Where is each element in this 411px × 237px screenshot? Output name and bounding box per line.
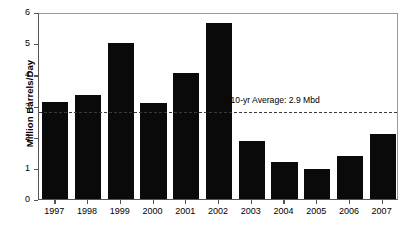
- bar[interactable]: [173, 73, 199, 199]
- y-axis-tick-mark: [34, 200, 38, 201]
- bar[interactable]: [304, 169, 330, 199]
- x-axis-tick-label: 2000: [136, 206, 169, 216]
- y-axis-tick-label: 5: [25, 38, 30, 49]
- x-axis-tick-mark: [349, 200, 350, 204]
- y-axis-tick-label: 6: [25, 7, 30, 18]
- x-axis-tick-mark: [218, 200, 219, 204]
- bars-layer: [39, 14, 397, 199]
- x-axis-tick-mark: [120, 200, 121, 204]
- x-axis-tick-mark: [316, 200, 317, 204]
- x-axis-tick-mark: [87, 200, 88, 204]
- plot-area: [38, 13, 398, 200]
- x-axis-tick-label: 2006: [333, 206, 366, 216]
- y-axis-tick-label: 1: [25, 163, 30, 174]
- x-axis-tick-label: 1998: [71, 206, 104, 216]
- bar[interactable]: [271, 162, 297, 199]
- average-line-label: 10-yr Average: 2.9 Mbd: [231, 95, 320, 105]
- bar[interactable]: [206, 23, 232, 199]
- x-axis-tick-mark: [251, 200, 252, 204]
- bar[interactable]: [140, 103, 166, 199]
- x-axis-tick-label: 2007: [365, 206, 398, 216]
- x-axis-tick-label: 2002: [202, 206, 235, 216]
- bar[interactable]: [42, 102, 68, 199]
- y-axis-tick-label: 0: [25, 194, 30, 205]
- bar[interactable]: [239, 141, 265, 199]
- y-axis-tick-label: 2: [25, 132, 30, 143]
- x-axis-tick-mark: [153, 200, 154, 204]
- x-axis-tick-label: 2004: [267, 206, 300, 216]
- x-axis-tick-label: 2001: [169, 206, 202, 216]
- bar[interactable]: [75, 95, 101, 199]
- bar-chart: Million Barrels/Day 0123456 10-yr Averag…: [0, 0, 411, 237]
- x-axis-tick-label: 2003: [234, 206, 267, 216]
- x-axis-tick-mark: [185, 200, 186, 204]
- x-axis-tick-mark: [283, 200, 284, 204]
- x-axis-tick-label: 1999: [103, 206, 136, 216]
- y-axis-tick-label: 3: [25, 101, 30, 112]
- x-axis-tick-mark: [54, 200, 55, 204]
- x-axis-tick-label: 2005: [300, 206, 333, 216]
- x-axis-tick-label: 1997: [38, 206, 71, 216]
- bar[interactable]: [337, 156, 363, 199]
- bar[interactable]: [370, 134, 396, 199]
- y-axis-tick-label: 4: [25, 69, 30, 80]
- average-line: [39, 112, 397, 113]
- x-axis-tick-mark: [382, 200, 383, 204]
- bar[interactable]: [108, 43, 134, 199]
